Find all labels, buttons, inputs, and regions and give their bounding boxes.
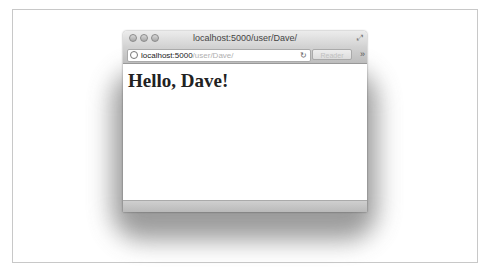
- toolbar: localhost:5000/user/Dave/ ↻ Reader »: [123, 47, 367, 64]
- window-title: localhost:5000/user/Dave/: [123, 33, 367, 43]
- fullscreen-icon[interactable]: ⤢: [357, 33, 363, 43]
- title-bar[interactable]: localhost:5000/user/Dave/ ⤢: [123, 31, 367, 47]
- url-path: /user/Dave/: [193, 51, 234, 60]
- chevron-more-icon[interactable]: »: [360, 49, 365, 59]
- globe-icon: [130, 51, 138, 59]
- url-text: localhost:5000/user/Dave/: [141, 50, 234, 61]
- browser-window: localhost:5000/user/Dave/ ⤢ localhost:50…: [123, 31, 367, 212]
- url-host: localhost:5000: [141, 51, 193, 60]
- reload-icon[interactable]: ↻: [300, 50, 307, 61]
- reader-button[interactable]: Reader: [312, 49, 352, 60]
- address-bar[interactable]: localhost:5000/user/Dave/ ↻: [127, 49, 311, 62]
- page-heading: Hello, Dave!: [128, 70, 228, 92]
- page-content: Hello, Dave!: [123, 64, 367, 200]
- status-bar: [123, 200, 367, 212]
